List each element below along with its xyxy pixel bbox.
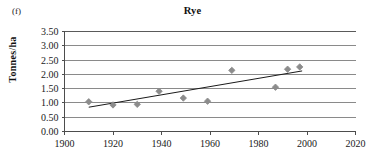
x-tick-label: 1980 bbox=[249, 138, 269, 149]
y-tick-label: 3.00 bbox=[41, 40, 59, 51]
data-point-marker bbox=[86, 99, 92, 105]
plot-area: 1900192019401960198020002020 0.000.501.0… bbox=[0, 0, 385, 160]
data-point-marker bbox=[204, 98, 210, 104]
x-tick-label: 2000 bbox=[297, 138, 317, 149]
data-point-marker bbox=[134, 101, 140, 107]
x-tick-labels: 1900192019401960198020002020 bbox=[55, 138, 366, 149]
y-tick-label: 0.50 bbox=[41, 112, 59, 123]
x-tick-label: 1940 bbox=[152, 138, 172, 149]
data-point-marker bbox=[297, 64, 303, 70]
data-point-marker bbox=[284, 66, 290, 72]
x-tick-label: 2020 bbox=[346, 138, 366, 149]
data-point-marker bbox=[272, 84, 278, 90]
y-tick-labels: 0.000.501.001.502.002.503.003.50 bbox=[41, 26, 59, 137]
y-tick-label: 3.50 bbox=[41, 26, 59, 37]
data-point-markers bbox=[86, 64, 303, 108]
y-tick-label: 1.50 bbox=[41, 83, 59, 94]
x-tick-label: 1900 bbox=[55, 138, 75, 149]
y-tick-label: 2.00 bbox=[41, 69, 59, 80]
chart-figure: (f) Rye Tonnes/ha 1900192019401960198020… bbox=[0, 0, 385, 160]
y-tick-label: 0.00 bbox=[41, 126, 59, 137]
data-point-marker bbox=[229, 67, 235, 73]
data-point-marker bbox=[180, 95, 186, 101]
x-tick-label: 1920 bbox=[103, 138, 123, 149]
y-tick-label: 1.00 bbox=[41, 97, 59, 108]
x-tick-label: 1960 bbox=[200, 138, 220, 149]
y-tick-label: 2.50 bbox=[41, 55, 59, 66]
